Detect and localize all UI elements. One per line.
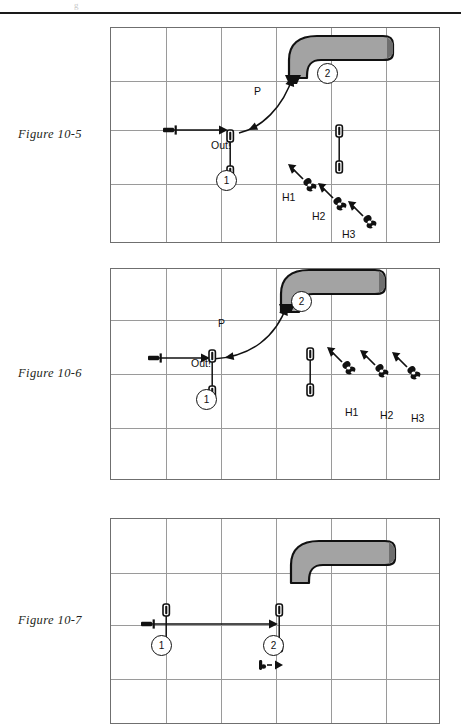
- figure-10-6-defender-label-h3: H3: [411, 412, 424, 424]
- figure-10-6-route-marker-1: 1: [196, 389, 217, 410]
- figure-10-7-label: Figure 10-7: [18, 613, 82, 628]
- coach-marker: [259, 660, 283, 670]
- figure-10-5-label: Figure 10-5: [18, 127, 82, 142]
- figure-10-5-route-marker-2: 2: [317, 63, 338, 84]
- ball-start-marker: [163, 125, 177, 134]
- runner-straight-arrow: [169, 126, 228, 135]
- defender-h1: [327, 347, 357, 376]
- figure-10-6-label-P: P: [218, 317, 225, 329]
- figure-10-7-route-marker-1-text: 1: [159, 640, 165, 651]
- figure-10-7-panel: 12: [110, 518, 440, 724]
- defender-h3: [348, 201, 378, 230]
- pipe-shape: [289, 36, 393, 78]
- pipe-shape: [291, 541, 395, 583]
- header-rule: [0, 12, 461, 14]
- figure-10-5-panel: POut!12H1H2H3: [110, 27, 440, 243]
- defender-h2: [318, 183, 348, 212]
- figure-10-5-label-out: Out!: [211, 139, 231, 151]
- defender-h3: [392, 352, 422, 381]
- figure-10-6-route-marker-2: 2: [291, 291, 312, 312]
- figure-10-7-route-marker-2-text: 2: [271, 640, 277, 651]
- defender-h2: [360, 350, 390, 379]
- goalpost-far: [336, 125, 342, 173]
- defender-h1: [288, 164, 318, 193]
- ball-start-marker: [148, 353, 162, 362]
- figure-10-5-label-P: P: [254, 85, 261, 97]
- figure-10-5-drawing: [111, 28, 441, 244]
- figure-10-6-defender-label-h2: H2: [380, 409, 393, 421]
- figure-10-5-defender-label-h3: H3: [342, 228, 355, 240]
- figure-10-7-drawing: [111, 519, 441, 724]
- figure-10-6-defender-label-h1: H1: [345, 406, 358, 418]
- figure-10-5-route-marker-1-text: 1: [224, 175, 230, 186]
- figure-10-7-route-marker-2: 2: [263, 635, 284, 656]
- route-curve-arrow: [239, 75, 297, 134]
- goalpost-far: [307, 348, 313, 396]
- figure-10-6-drawing: [111, 269, 441, 481]
- figure-10-6-route-marker-1-text: 1: [204, 394, 210, 405]
- figure-10-6-label-out: Out!: [191, 357, 211, 369]
- ball-start-marker: [141, 619, 155, 628]
- header-ghost-text: g: [74, 0, 88, 10]
- figure-10-6-route-marker-2-text: 2: [299, 296, 305, 307]
- figure-page: g Figure 10-5POut!12H1H2H3Figure 10-6POu…: [0, 0, 461, 724]
- figure-10-7-route-marker-1: 1: [151, 635, 172, 656]
- figure-10-6-label: Figure 10-6: [18, 366, 82, 381]
- figure-10-5-defender-label-h1: H1: [282, 191, 295, 203]
- figure-10-5-route-marker-1: 1: [216, 170, 237, 191]
- figure-10-5-defender-label-h2: H2: [312, 210, 325, 222]
- figure-10-5-route-marker-2-text: 2: [325, 68, 331, 79]
- figure-10-6-panel: POut!12H1H2H3: [110, 268, 440, 480]
- route-curve-arrow: [213, 303, 291, 361]
